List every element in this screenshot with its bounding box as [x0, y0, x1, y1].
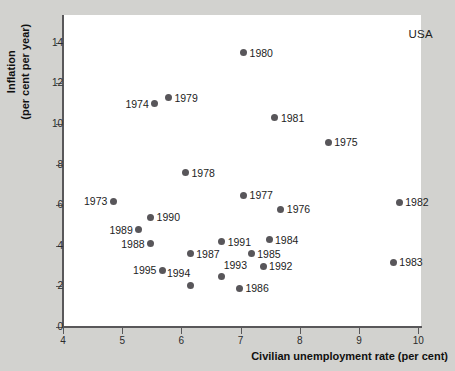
x-tick-mark — [63, 327, 64, 334]
data-point-label: 1991 — [228, 237, 251, 248]
data-point-label: 1981 — [281, 113, 304, 124]
data-point-label: 1974 — [125, 99, 154, 110]
y-tick-label: 4 — [41, 241, 63, 251]
data-point-label: 1989 — [109, 225, 138, 236]
y-tick-label: 6 — [41, 200, 63, 210]
x-tick-label: 9 — [344, 336, 374, 346]
data-point-label: 1982 — [405, 197, 428, 208]
data-point — [240, 192, 247, 199]
data-point-label: 1983 — [399, 257, 422, 268]
data-point-label: 1984 — [275, 235, 298, 246]
y-tick-label: 10 — [41, 119, 63, 129]
x-tick-label: 10 — [403, 336, 433, 346]
data-point-label: 1993 — [224, 260, 247, 271]
x-tick-mark — [418, 327, 419, 334]
data-point-label: 1986 — [245, 283, 268, 294]
x-tick-mark — [181, 327, 182, 334]
data-point — [165, 94, 172, 101]
scatter-chart-figure: 02468101214 45678910 1973197419751976197… — [0, 0, 455, 371]
data-point — [396, 199, 403, 206]
data-point — [187, 282, 194, 289]
data-point-label: 1975 — [334, 137, 357, 148]
y-tick-label: 0 — [41, 322, 63, 332]
data-point-label: 1990 — [157, 212, 180, 223]
x-tick-mark — [300, 327, 301, 334]
y-tick-label: 12 — [41, 78, 63, 88]
data-point-label: 1979 — [174, 93, 197, 104]
x-tick-label: 4 — [48, 336, 78, 346]
data-point — [218, 273, 225, 280]
y-axis-title-line2: (per cent per year) — [19, 0, 33, 147]
data-point — [325, 139, 332, 146]
x-axis-line — [62, 326, 422, 328]
data-point — [147, 214, 154, 221]
x-tick-label: 6 — [166, 336, 196, 346]
data-point-label: 1994 — [167, 268, 190, 279]
data-point-label: 1978 — [192, 168, 215, 179]
data-point-label: 1980 — [250, 48, 273, 59]
data-point-label: 1995 — [133, 265, 162, 276]
x-tick-label: 7 — [226, 336, 256, 346]
data-point-label: 1985 — [257, 249, 280, 260]
y-tick-label: 14 — [41, 38, 63, 48]
y-axis-title: Inflation (per cent per year) — [5, 0, 33, 147]
x-axis-title: Civilian unemployment rate (per cent) — [0, 351, 448, 362]
data-point — [260, 263, 267, 270]
x-tick-mark — [241, 327, 242, 334]
data-point — [266, 236, 273, 243]
data-point-label: 1973 — [84, 196, 113, 207]
plot-area — [63, 15, 421, 327]
data-point — [390, 259, 397, 266]
x-tick-mark — [122, 327, 123, 334]
y-tick-label: 8 — [41, 160, 63, 170]
data-point — [236, 285, 243, 292]
data-point-label: 1987 — [196, 249, 219, 260]
data-point-label: 1992 — [269, 261, 292, 272]
data-point-label: 1976 — [287, 204, 310, 215]
y-axis-title-line1: Inflation — [5, 0, 19, 147]
x-tick-label: 5 — [107, 336, 137, 346]
y-tick-label: 2 — [41, 281, 63, 291]
country-annotation: USA — [408, 28, 433, 40]
data-point-label: 1977 — [250, 190, 273, 201]
x-tick-mark — [359, 327, 360, 334]
data-point-label: 1988 — [121, 239, 150, 250]
x-tick-label: 8 — [285, 336, 315, 346]
